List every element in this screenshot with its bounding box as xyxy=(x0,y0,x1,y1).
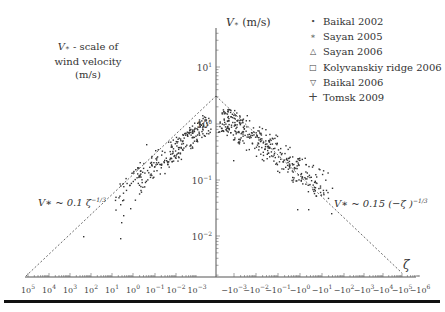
legend-label: Sayan 2005 xyxy=(323,29,383,44)
y-tick-label: 10−2 xyxy=(192,230,212,242)
x-tick-label: 10−2 xyxy=(166,283,185,295)
plus-marker-icon: + xyxy=(307,90,319,105)
fit-label-left-exp: −1/3 xyxy=(91,196,106,203)
x-tick-label: 103 xyxy=(63,283,77,295)
legend-item: □Kolyvanskiy ridge 2006 xyxy=(307,60,442,75)
legend-label: Baikal 2006 xyxy=(323,75,383,90)
legend-label: Kolyvanskiy ridge 2006 xyxy=(323,60,442,75)
x-tick-label: −102 xyxy=(334,283,355,295)
legend-item: ∗Sayan 2005 xyxy=(307,29,442,44)
legend-item: △Sayan 2006 xyxy=(307,44,442,59)
x-tick-label: −101 xyxy=(312,283,333,295)
annotation-var: V xyxy=(58,41,65,52)
y-axis-minor-ticks xyxy=(216,33,220,275)
y-tick-label: 10−1 xyxy=(192,174,212,186)
x-tick-label: −100 xyxy=(290,283,311,295)
fit-label-right: V∗ ~ 0.15 (−ζ )−1/3 xyxy=(334,197,428,209)
x-tick-label: −10−1 xyxy=(265,283,291,295)
x-tick-label: 104 xyxy=(42,283,56,295)
y-tick-label: 101 xyxy=(197,61,212,73)
x-tick-label: 10−1 xyxy=(145,283,164,295)
x-tick-label: 105 xyxy=(21,283,35,295)
legend-label: Sayan 2006 xyxy=(323,44,383,59)
triangle-down-marker-icon: ▽ xyxy=(307,75,319,90)
x-tick-label: −103 xyxy=(354,283,375,295)
y-axis-title-var: V xyxy=(226,16,234,29)
annotation-line2: wind velocity (m/s) xyxy=(54,56,121,80)
x-tick-label: 10−3 xyxy=(187,283,206,295)
legend-label: Baikal 2002 xyxy=(323,14,383,29)
y-axis-title-unit: (m/s) xyxy=(242,16,270,29)
square-marker-icon: □ xyxy=(307,60,319,75)
fit-label-left-text: V∗ ~ 0.1 ζ xyxy=(38,197,91,208)
fit-line-right xyxy=(216,96,402,273)
bottom-rule xyxy=(4,300,440,303)
y-axis-title: V∗ (m/s) xyxy=(226,16,271,29)
fit-label-right-text: V∗ ~ 0.15 (−ζ ) xyxy=(334,198,413,209)
dot-marker-icon: • xyxy=(307,14,319,29)
y-tick-label: 100 xyxy=(197,118,212,130)
annotation-velocity-scale: V∗ - scale of wind velocity (m/s) xyxy=(44,40,132,81)
legend: •Baikal 2002 ∗Sayan 2005 △Sayan 2006 □Ko… xyxy=(307,14,442,105)
legend-item: +Tomsk 2009 xyxy=(307,90,442,105)
annotation-line1: - scale of xyxy=(70,41,118,52)
x-axis-zeta-label: ζ xyxy=(403,258,410,272)
triangle-up-marker-icon: △ xyxy=(307,44,319,59)
fit-label-right-exp: −1/3 xyxy=(413,197,428,204)
legend-label: Tomsk 2009 xyxy=(323,90,384,105)
fit-label-left: V∗ ~ 0.1 ζ−1/3 xyxy=(38,196,106,208)
x-tick-label: 101 xyxy=(105,283,119,295)
x-tick-label: 102 xyxy=(84,283,98,295)
x-tick-label: −104 xyxy=(373,283,394,295)
legend-item: ▽Baikal 2006 xyxy=(307,75,442,90)
x-tick-label: 100 xyxy=(126,283,140,295)
x-tick-label: −106 xyxy=(410,283,431,295)
asterisk-marker-icon: ∗ xyxy=(307,29,319,44)
legend-item: •Baikal 2002 xyxy=(307,14,442,29)
